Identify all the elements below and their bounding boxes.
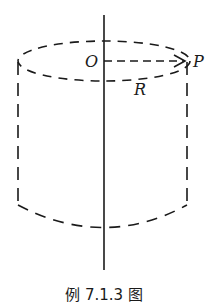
bottom-arc [18, 205, 187, 228]
label-point: P [192, 52, 204, 71]
figure-caption: 例 7.1.3 图 [65, 286, 143, 303]
label-origin: O [85, 52, 98, 71]
cylinder-diagram: O P R 例 7.1.3 图 [0, 0, 209, 303]
label-radius: R [133, 80, 146, 99]
